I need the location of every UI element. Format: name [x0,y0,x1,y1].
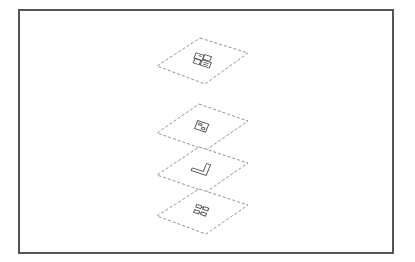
diagram-canvas [0,0,415,262]
layer-stack-diagram [0,0,415,262]
layer-4 [157,189,248,234]
layer-2 [157,104,248,150]
layer-3-outline [157,147,248,192]
layer-1-outline [157,38,248,84]
layer-1 [157,38,248,84]
layer-3 [157,147,248,192]
layer-4-outline [157,189,248,234]
